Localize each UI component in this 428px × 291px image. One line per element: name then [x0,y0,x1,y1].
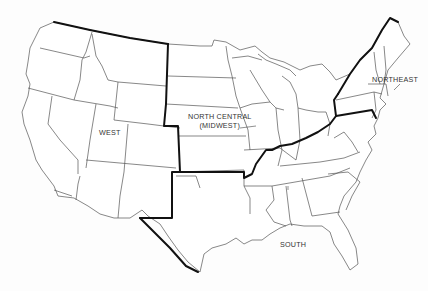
us-regions-map: WEST NORTH CENTRAL (MIDWEST) NORTHEAST S… [0,0,428,291]
region-label-northeast: NORTHEAST [372,75,418,84]
region-label-south: SOUTH [280,240,306,249]
us-landmass [22,18,410,272]
northeast-leader-line [394,84,400,90]
region-label-north-central: NORTH CENTRAL (MIDWEST) [188,112,252,130]
region-label-north-central-line2: (MIDWEST) [188,121,252,130]
region-label-north-central-line1: NORTH CENTRAL [188,112,252,121]
region-label-west: WEST [99,128,121,137]
map-svg [0,0,428,291]
